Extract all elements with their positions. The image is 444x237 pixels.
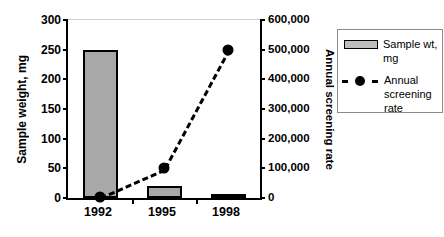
dash-left-icon [342, 80, 348, 83]
x-axis-tick-mark [132, 198, 134, 204]
right-axis-tick-mark [260, 78, 265, 80]
right-axis-tick-label: 0 [268, 192, 274, 204]
left-axis-tick-mark [63, 138, 68, 140]
right-axis-tick-mark [260, 49, 265, 51]
legend-label-screening-rate: Annual screening rate [384, 74, 442, 115]
right-axis-title: Annual screening rate [322, 19, 338, 200]
left-axis-tick-label: 0 [54, 192, 61, 204]
left-axis-tick-mark [63, 197, 68, 199]
dashed-line-marker-swatch-icon [342, 75, 378, 87]
x-axis-tick-label: 1992 [84, 206, 112, 219]
left-axis-tick-label: 150 [41, 103, 61, 115]
left-axis-tick-mark [63, 167, 68, 169]
bar-1998 [211, 194, 246, 198]
left-axis-tick-label: 200 [41, 73, 61, 85]
left-axis-tick-label: 50 [48, 162, 61, 174]
data-point-1995 [159, 163, 170, 174]
right-axis-title-text: Annual screening rate [324, 49, 336, 170]
left-axis-title-text: Sample weight, mg [15, 55, 29, 164]
data-point-1998 [223, 44, 234, 55]
right-axis-tick-mark [260, 167, 265, 169]
bar-1992 [83, 50, 118, 198]
right-axis-tick-mark [260, 197, 265, 199]
circle-marker-icon [355, 76, 365, 86]
right-axis-tick-label: 200,000 [268, 133, 310, 145]
right-axis-tick-label: 100,000 [268, 163, 310, 175]
left-axis-tick-label: 250 [41, 44, 61, 56]
right-axis-tick-label: 600,000 [268, 14, 310, 26]
right-axis-tick-mark [260, 138, 265, 140]
left-axis-title: Sample weight, mg [14, 19, 30, 200]
dash-right-icon [372, 80, 378, 83]
left-axis-tick-mark [63, 78, 68, 80]
chart-figure: Sample weight, mg Annual screening rate … [0, 0, 444, 237]
legend-item-sample-weight: Sample wt, mg [344, 38, 441, 66]
right-axis-tick-label: 400,000 [268, 74, 310, 86]
left-axis-tick-mark [63, 108, 68, 110]
left-axis-tick-mark [63, 49, 68, 51]
x-axis-tick-mark [196, 198, 198, 204]
right-axis-tick-label: 300,000 [268, 103, 310, 115]
right-axis-tick-mark [260, 19, 265, 21]
bar-1995 [147, 186, 182, 198]
data-point-1992 [95, 191, 106, 202]
line-segment [164, 50, 231, 170]
chart-legend: Sample wt, mg Annual screening rate [337, 29, 443, 113]
x-axis-tick-label: 1995 [148, 206, 176, 219]
bar-swatch-icon [344, 40, 378, 49]
legend-item-screening-rate: Annual screening rate [342, 74, 442, 115]
right-axis-tick-mark [260, 108, 265, 110]
left-axis-tick-label: 100 [41, 133, 61, 145]
legend-label-sample-weight: Sample wt, mg [383, 38, 441, 66]
plot-area: 0501001502002503000100,000200,000300,000… [66, 19, 262, 200]
left-axis-tick-label: 300 [41, 14, 61, 26]
x-axis-tick-label: 1998 [212, 206, 240, 219]
right-axis-tick-label: 500,000 [268, 44, 310, 56]
left-axis-tick-mark [63, 19, 68, 21]
